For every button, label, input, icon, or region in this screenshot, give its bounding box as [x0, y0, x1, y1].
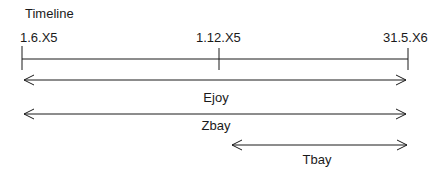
zbay-label: Zbay — [202, 118, 231, 133]
ejoy-span-arrow — [24, 75, 406, 85]
tbay-label: Tbay — [303, 152, 332, 167]
ejoy-label: Ejoy — [203, 90, 228, 105]
tbay-span-arrow — [232, 140, 407, 150]
timeline-diagram — [0, 0, 432, 172]
